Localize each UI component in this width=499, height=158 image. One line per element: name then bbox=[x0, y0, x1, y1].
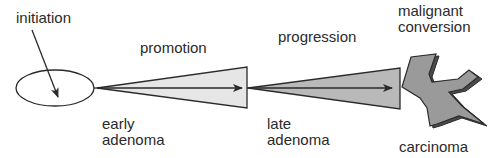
carcinoma-shape bbox=[402, 54, 487, 128]
early-adenoma-label-line2: adenoma bbox=[102, 131, 165, 148]
initiation-label: initiation bbox=[16, 9, 71, 26]
carcinogenesis-diagram: initiation promotion progression maligna… bbox=[0, 0, 499, 158]
promotion-label: promotion bbox=[140, 39, 207, 56]
malignant-conversion-label-line1: malignant bbox=[398, 2, 464, 19]
malignant-conversion-label-line2: conversion bbox=[398, 18, 471, 35]
late-adenoma-label-line2: adenoma bbox=[267, 131, 330, 148]
progression-label: progression bbox=[278, 28, 356, 45]
carcinoma-label: carcinoma bbox=[399, 138, 469, 155]
late-adenoma-label-line1: late bbox=[267, 115, 291, 132]
early-adenoma-label-line1: early bbox=[102, 115, 135, 132]
initiation-arrow-icon bbox=[32, 30, 58, 97]
